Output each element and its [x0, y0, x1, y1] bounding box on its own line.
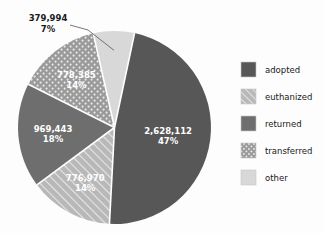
legend-label-euthanized[interactable]: euthanized — [265, 92, 312, 102]
legend-swatch-euthanized[interactable] — [241, 89, 256, 104]
slice-percent-other: 7% — [41, 24, 56, 34]
pie-chart-figure: 2,628,11247%776,97014%969,44318%778,3851… — [0, 0, 324, 233]
legend-swatch-returned[interactable] — [241, 116, 256, 131]
chart-legend: adoptedeuthanizedreturnedtransferredothe… — [241, 62, 312, 185]
slice-percent-adopted: 47% — [158, 136, 179, 146]
slice-percent-transferred: 14% — [66, 80, 87, 90]
legend-label-returned[interactable]: returned — [265, 119, 302, 129]
slice-value-transferred: 778,385 — [57, 70, 96, 80]
legend-label-adopted[interactable]: adopted — [265, 65, 300, 75]
slice-value-other: 379,994 — [29, 13, 68, 23]
slice-percent-euthanized: 14% — [75, 183, 96, 193]
slice-value-returned: 969,443 — [34, 124, 73, 134]
slice-value-euthanized: 776,970 — [66, 173, 105, 183]
legend-label-other[interactable]: other — [265, 173, 288, 183]
slice-percent-returned: 18% — [43, 134, 64, 144]
legend-swatch-other[interactable] — [241, 170, 256, 185]
slice-label-other: 379,9947% — [29, 13, 68, 34]
legend-swatch-transferred[interactable] — [241, 143, 256, 158]
legend-swatch-adopted[interactable] — [241, 62, 256, 77]
legend-label-transferred[interactable]: transferred — [265, 146, 312, 156]
slice-value-adopted: 2,628,112 — [144, 126, 192, 136]
pie-chart-canvas: 2,628,11247%776,97014%969,44318%778,3851… — [0, 0, 324, 233]
